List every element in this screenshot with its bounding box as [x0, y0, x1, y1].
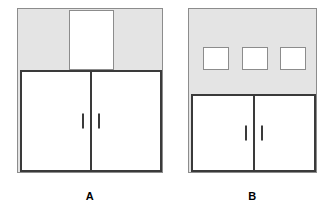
door-left-b[interactable] — [193, 96, 254, 170]
upper-window-2-b — [242, 47, 268, 70]
door-right-a[interactable] — [91, 72, 160, 170]
door-handle-left-a[interactable] — [82, 114, 84, 129]
door-section-a — [20, 70, 162, 172]
unit-body-a — [17, 8, 163, 173]
figure-a: A — [17, 8, 163, 173]
door-left-a[interactable] — [22, 72, 91, 170]
door-handle-left-b[interactable] — [245, 126, 247, 141]
upper-window-1-b — [203, 47, 229, 70]
unit-body-b — [188, 8, 317, 173]
upper-window-3-b — [280, 47, 306, 70]
door-section-b — [191, 94, 316, 172]
upper-window-a — [69, 10, 114, 70]
figure-caption-a: A — [17, 190, 163, 202]
upper-window-row-b — [203, 47, 306, 70]
figure-caption-b: B — [188, 190, 317, 202]
door-handle-right-b[interactable] — [261, 126, 263, 141]
door-right-b[interactable] — [254, 96, 315, 170]
door-handle-right-a[interactable] — [98, 114, 100, 129]
figure-b: B — [188, 8, 317, 173]
